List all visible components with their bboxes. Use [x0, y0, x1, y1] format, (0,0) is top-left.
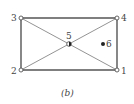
node-1 — [115, 68, 119, 72]
figure-caption: (b) — [61, 88, 74, 98]
node-label-1: 1 — [121, 66, 127, 76]
node-3 — [19, 16, 23, 20]
node-label-2: 2 — [11, 66, 17, 76]
node-label-4: 4 — [121, 13, 127, 23]
node-label-5: 5 — [66, 31, 72, 41]
node-label-6: 6 — [106, 39, 112, 49]
node-4 — [115, 16, 119, 20]
node-5 — [67, 42, 72, 47]
node-label-3: 3 — [11, 13, 17, 23]
node-2 — [19, 68, 23, 72]
node-6 — [101, 42, 105, 46]
graph-diagram: 3 4 2 1 5 6 (b) — [0, 0, 134, 104]
